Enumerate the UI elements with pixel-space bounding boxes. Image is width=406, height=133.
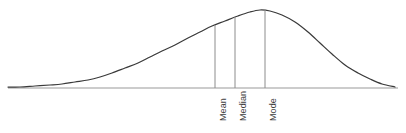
- distribution-curve-chart: [0, 0, 406, 133]
- mean-label: Mean: [219, 98, 228, 121]
- median-label: Median: [239, 91, 248, 121]
- distribution-figure: Mean Median Mode: [0, 0, 406, 133]
- mode-label: Mode: [269, 98, 278, 121]
- bell-curve-path: [8, 10, 395, 87]
